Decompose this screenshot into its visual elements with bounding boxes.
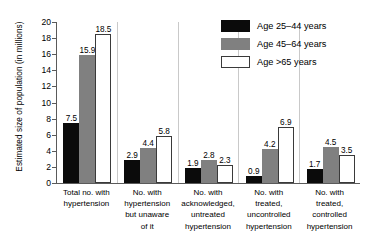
- category-label-line: No. with: [117, 187, 178, 198]
- category-label-line: No. with: [238, 187, 299, 198]
- legend-swatch-gray: [221, 38, 250, 50]
- bar-value-label: 4.2: [264, 140, 275, 149]
- legend-label: Age >65 years: [257, 57, 317, 67]
- bar[interactable]: 4.5: [323, 147, 339, 183]
- bar[interactable]: 0.9: [246, 176, 262, 183]
- x-axis-line: [56, 183, 360, 184]
- bar-value-label: 7.5: [66, 114, 77, 123]
- bar[interactable]: 6.9: [278, 127, 294, 183]
- y-tick-label: 0: [46, 178, 51, 188]
- legend-item[interactable]: Age 25–44 years: [221, 17, 326, 35]
- bar-chart: Estimated size of population (in million…: [0, 0, 387, 247]
- category-label-line: hypertension: [299, 221, 360, 232]
- legend-item[interactable]: Age 45–64 years: [221, 35, 326, 53]
- bar-group: 2.94.45.8: [117, 22, 178, 183]
- y-tick-label: 20: [41, 17, 51, 27]
- bar-value-label: 0.9: [248, 167, 259, 176]
- y-tick-label: 16: [41, 49, 51, 59]
- y-tick-label: 10: [41, 98, 51, 108]
- category-label-line: hypertension: [178, 221, 239, 232]
- category-label-line: of it: [117, 221, 178, 232]
- bar[interactable]: 2.3: [217, 165, 233, 184]
- bar-value-label: 4.5: [325, 138, 336, 147]
- y-tick-label: 12: [41, 81, 51, 91]
- x-axis-category-label: No. withtreated,uncontrolledhypertension: [238, 187, 299, 232]
- bar-value-label: 15.9: [79, 46, 95, 55]
- y-tick-label: 14: [41, 65, 51, 75]
- y-tick-mark: [52, 183, 56, 184]
- bar-value-label: 2.3: [219, 156, 230, 165]
- legend-item[interactable]: Age >65 years: [221, 53, 326, 71]
- x-axis-category-labels: Total no. withhypertensionNo. withhypert…: [56, 187, 360, 247]
- bar[interactable]: 1.7: [307, 169, 323, 183]
- y-axis-title: Estimated size of population (in million…: [15, 12, 24, 182]
- bar[interactable]: 4.2: [262, 149, 278, 183]
- y-tick-label: 8: [46, 114, 51, 124]
- bar-value-label: 6.9: [280, 118, 291, 127]
- legend-swatch-white: [221, 56, 250, 68]
- bar-value-label: 3.5: [341, 146, 352, 155]
- category-label-line: No. with: [178, 187, 239, 198]
- category-label-line: acknowledged,: [178, 198, 239, 209]
- bar[interactable]: 1.9: [185, 168, 201, 183]
- legend-label: Age 45–64 years: [257, 39, 326, 49]
- bar-value-label: 1.9: [187, 159, 198, 168]
- category-label-line: treated,: [238, 198, 299, 209]
- bar[interactable]: 2.8: [201, 160, 217, 183]
- category-label-line: but unaware: [117, 209, 178, 220]
- category-label-line: hypertension: [56, 198, 117, 209]
- y-tick-label: 2: [46, 162, 51, 172]
- x-axis-category-label: No. withtreated,controlledhypertension: [299, 187, 360, 232]
- bar[interactable]: 2.9: [124, 160, 140, 183]
- x-axis-category-label: No. withhypertensionbut unawareof it: [117, 187, 178, 232]
- bar[interactable]: 3.5: [339, 155, 355, 183]
- bar-value-label: 18.5: [95, 25, 111, 34]
- category-label-line: No. with: [299, 187, 360, 198]
- bar-group: 7.515.918.5: [56, 22, 117, 183]
- y-tick-label: 4: [46, 146, 51, 156]
- legend-label: Age 25–44 years: [257, 21, 326, 31]
- category-label-line: untreated: [178, 209, 239, 220]
- bar-value-label: 4.4: [142, 139, 153, 148]
- bar[interactable]: 4.4: [140, 148, 156, 183]
- bar[interactable]: 18.5: [95, 34, 111, 183]
- y-tick-label: 18: [41, 33, 51, 43]
- bar[interactable]: 7.5: [63, 123, 79, 183]
- category-label-line: hypertension: [117, 198, 178, 209]
- category-label-line: Total no. with: [56, 187, 117, 198]
- category-label-line: hypertension: [238, 221, 299, 232]
- y-tick-label: 6: [46, 130, 51, 140]
- legend: Age 25–44 yearsAge 45–64 yearsAge >65 ye…: [221, 17, 326, 71]
- bar-value-label: 2.9: [126, 151, 137, 160]
- legend-swatch-black: [221, 20, 250, 32]
- x-axis-category-label: Total no. withhypertension: [56, 187, 117, 209]
- bar-value-label: 5.8: [158, 127, 169, 136]
- category-label-line: treated,: [299, 198, 360, 209]
- bar-value-label: 2.8: [203, 151, 214, 160]
- bar-value-label: 1.7: [309, 160, 320, 169]
- bar[interactable]: 15.9: [79, 55, 95, 183]
- category-label-line: uncontrolled: [238, 209, 299, 220]
- category-label-line: controlled: [299, 209, 360, 220]
- x-axis-category-label: No. withacknowledged,untreatedhypertensi…: [178, 187, 239, 232]
- bar[interactable]: 5.8: [156, 136, 172, 183]
